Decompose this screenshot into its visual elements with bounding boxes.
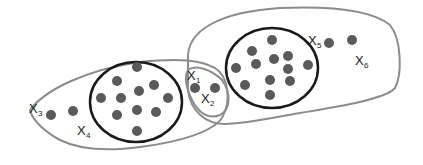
left-core-points [96,62,173,136]
label-x1: X 1 [187,68,201,85]
svg-text:6: 6 [364,61,369,70]
svg-text:5: 5 [317,41,322,50]
point-x3 [46,110,56,120]
svg-text:3: 3 [38,109,43,118]
svg-text:X: X [77,123,86,138]
svg-text:X: X [355,53,364,68]
label-x6: X 6 [355,53,369,70]
cluster-diagram: X 1 X 2 X 3 X 4 X 5 X 6 [0,0,423,165]
svg-text:X: X [29,101,38,116]
svg-text:1: 1 [196,76,201,85]
label-x5: X 5 [308,33,322,50]
svg-text:2: 2 [210,99,215,108]
label-x3: X 3 [29,101,43,118]
point-x2 [210,83,220,93]
svg-text:X: X [308,33,317,48]
svg-text:X: X [201,91,210,106]
point-x5 [324,38,334,48]
label-x2: X 2 [201,91,215,108]
right-core-points [231,35,313,100]
left-cluster-hull [30,60,228,149]
point-x6 [347,35,357,45]
point-x4 [68,106,78,116]
label-x4: X 4 [77,123,91,140]
svg-text:4: 4 [86,131,91,140]
svg-text:X: X [187,68,196,83]
